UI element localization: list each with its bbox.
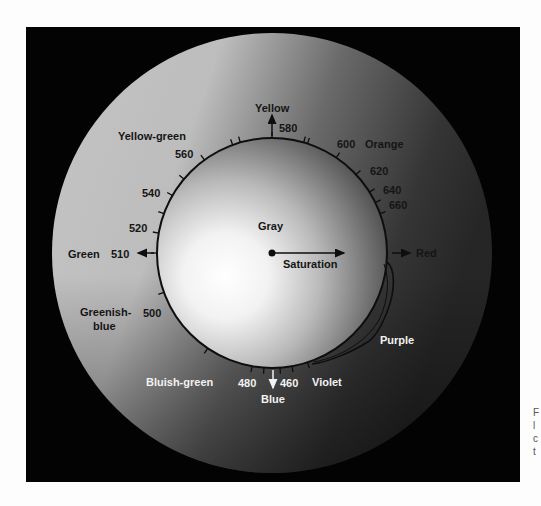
label-saturation: Saturation — [283, 258, 338, 270]
color-circle-diagram: Gray Saturation Yellow 580 600 Orange 62… — [26, 27, 520, 482]
caption-fragment: c — [533, 432, 541, 445]
label-480: 480 — [238, 377, 256, 389]
label-greenish-blue-line1: Greenish- — [80, 306, 132, 318]
label-greenish-blue-line2: blue — [93, 320, 116, 332]
label-640: 640 — [383, 184, 401, 196]
figure-frame: Gray Saturation Yellow 580 600 Orange 62… — [26, 27, 520, 482]
label-500: 500 — [143, 307, 161, 319]
caption-fragment: l — [533, 419, 541, 432]
label-bluish-green: Bluish-green — [146, 376, 214, 388]
caption-fragment: F — [533, 406, 541, 419]
label-yellow-green: Yellow-green — [118, 130, 186, 142]
label-blue: Blue — [261, 393, 285, 405]
caption-fragment: t — [533, 445, 541, 458]
label-purple: Purple — [380, 334, 414, 346]
label-560: 560 — [175, 148, 193, 160]
figure-caption-fragment: F l c t — [533, 406, 541, 458]
label-yellow: Yellow — [255, 102, 290, 114]
label-620: 620 — [370, 165, 388, 177]
label-460: 460 — [280, 377, 298, 389]
label-580: 580 — [279, 122, 297, 134]
label-red: Red — [416, 247, 437, 259]
label-gray: Gray — [258, 220, 284, 232]
label-green: Green — [68, 248, 100, 260]
label-600: 600 — [337, 138, 355, 150]
label-540: 540 — [142, 187, 160, 199]
label-520: 520 — [129, 222, 147, 234]
label-violet: Violet — [312, 376, 342, 388]
label-660: 660 — [389, 199, 407, 211]
label-orange: Orange — [365, 138, 404, 150]
label-510: 510 — [111, 248, 129, 260]
